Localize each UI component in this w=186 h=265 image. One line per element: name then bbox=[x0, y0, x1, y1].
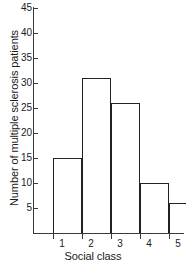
x-tick-label: 1 bbox=[52, 238, 72, 249]
x-tick-label: 3 bbox=[110, 238, 130, 249]
bar-social-class-2 bbox=[82, 78, 111, 233]
x-axis-title: Social class bbox=[0, 250, 186, 262]
bar-social-class-1 bbox=[53, 158, 82, 233]
y-tick-label: 20 bbox=[14, 128, 32, 138]
bar-social-class-4 bbox=[140, 183, 169, 233]
plot-area bbox=[34, 0, 184, 234]
y-axis-tick-labels: 45 40 35 30 25 20 15 10 5 bbox=[12, 0, 32, 265]
x-tick-label: 2 bbox=[81, 238, 101, 249]
y-tick-label: 30 bbox=[14, 78, 32, 88]
y-tick-label: 5 bbox=[14, 203, 32, 213]
y-tick-label: 35 bbox=[14, 53, 32, 63]
y-tick-label: 40 bbox=[14, 28, 32, 38]
bar-chart: Number of multiple sclerosis patients 45… bbox=[0, 0, 186, 265]
bar-social-class-3 bbox=[111, 103, 140, 233]
y-tick-label: 45 bbox=[14, 3, 32, 13]
bar-social-class-5 bbox=[169, 203, 186, 233]
y-tick-label: 15 bbox=[14, 153, 32, 163]
y-tick-label: 10 bbox=[14, 178, 32, 188]
y-tick-label: 25 bbox=[14, 103, 32, 113]
x-tick-label: 5 bbox=[168, 238, 186, 249]
x-tick-label: 4 bbox=[139, 238, 159, 249]
